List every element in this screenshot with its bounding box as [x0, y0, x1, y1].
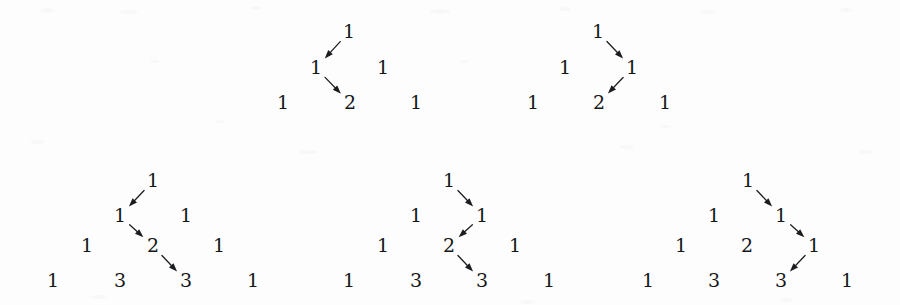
pascal-cell: 1 — [653, 93, 677, 112]
pascal-cell: 1 — [521, 93, 545, 112]
pascal-cell: 2 — [141, 236, 165, 255]
path-arrow — [608, 77, 623, 93]
pascal-cell: 1 — [736, 171, 760, 190]
pascal-cell: 1 — [241, 271, 265, 290]
pascal-cell: 3 — [702, 271, 726, 290]
scan-speckle — [660, 125, 672, 128]
pascal-cell: 1 — [470, 206, 494, 225]
pascal-cell: 2 — [587, 93, 611, 112]
scan-speckle — [120, 10, 138, 14]
pascal-cell: 1 — [404, 206, 428, 225]
scan-speckle — [840, 8, 852, 12]
path-arrow — [458, 255, 473, 271]
path-arrow — [162, 255, 177, 271]
scan-speckle — [30, 140, 45, 144]
scan-speckle — [150, 60, 159, 63]
pascal-cell: 1 — [371, 236, 395, 255]
pascal-cell: 1 — [702, 206, 726, 225]
scan-speckle — [620, 145, 634, 149]
scan-speckle — [430, 9, 450, 14]
pascal-cell: 2 — [735, 236, 759, 255]
pascal-cell: 1 — [75, 236, 99, 255]
scan-speckle — [90, 295, 106, 299]
path-arrow — [607, 41, 623, 58]
arrow-layer — [0, 0, 900, 305]
pascal-cell: 1 — [371, 58, 395, 77]
pascal-cell: 3 — [174, 271, 198, 290]
scan-speckle — [460, 60, 469, 63]
pascal-cell: 1 — [271, 93, 295, 112]
pascal-cell: 1 — [108, 206, 132, 225]
pascal-cell: 1 — [404, 93, 428, 112]
pascal-cell: 1 — [835, 271, 859, 290]
pascal-cell: 1 — [437, 171, 461, 190]
pascal-cell: 2 — [437, 236, 461, 255]
pascal-cell: 1 — [802, 236, 826, 255]
path-arrow — [757, 190, 772, 206]
pascal-cell: 1 — [337, 22, 361, 41]
pascal-cell: 1 — [553, 58, 577, 77]
pascal-cell: 1 — [174, 206, 198, 225]
pascal-cell: 1 — [620, 58, 644, 77]
pascal-cell: 3 — [404, 271, 428, 290]
path-arrow — [458, 190, 473, 206]
pascal-cell: 3 — [470, 271, 494, 290]
pascal-cell: 3 — [769, 271, 793, 290]
pascal-cell: 1 — [537, 271, 561, 290]
pascal-cell: 1 — [41, 271, 65, 290]
pascal-cell: 1 — [586, 22, 610, 41]
pascal-cell: 1 — [304, 58, 328, 77]
pascal-cell: 1 — [207, 236, 231, 255]
pascal-cell: 1 — [337, 271, 361, 290]
path-arrow — [790, 255, 805, 271]
pascal-cell: 1 — [141, 171, 165, 190]
pascal-triangle-figure: 1111211111211111211331111121133111112113… — [0, 0, 900, 305]
path-arrow — [129, 190, 144, 206]
scan-speckle — [520, 300, 534, 304]
pascal-cell: 1 — [769, 206, 793, 225]
pascal-cell: 3 — [108, 271, 132, 290]
scan-speckle — [780, 298, 792, 302]
scan-speckle — [40, 8, 54, 13]
pascal-cell: 2 — [338, 93, 362, 112]
scan-speckle — [215, 120, 225, 123]
path-arrow — [325, 77, 341, 93]
pascal-cell: 1 — [636, 271, 660, 290]
scan-speckle — [560, 7, 570, 11]
scan-speckle — [860, 150, 872, 154]
pascal-cell: 1 — [503, 236, 527, 255]
scan-speckle — [300, 150, 318, 154]
scan-speckle — [700, 10, 716, 14]
path-arrow — [325, 42, 340, 59]
pascal-cell: 1 — [669, 236, 693, 255]
scan-speckle — [250, 6, 262, 10]
